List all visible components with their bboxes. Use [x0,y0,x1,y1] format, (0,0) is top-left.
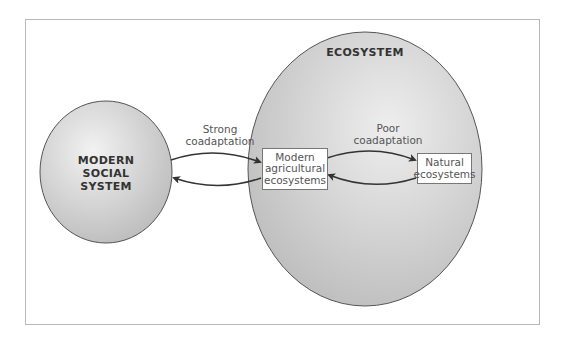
ecosystem-label: ECOSYSTEM [320,46,410,59]
social-system-label-line: SOCIAL [66,167,146,180]
poor-coadaptation-label: Poor coadaptation [343,122,433,146]
social-system-label: MODERN SOCIAL SYSTEM [66,154,146,193]
social-system-label-line: MODERN [66,154,146,167]
edge-label-line: Poor [343,122,433,134]
edge-label-line: Strong [175,123,265,135]
strong-coadaptation-label: Strong coadaptation [175,123,265,147]
agricultural-ecosystems-box: Modern agricultural ecosystems [262,148,328,190]
natural-ecosystems-box: Natural ecosystems [417,153,472,184]
edge-label-line: coadaptation [175,135,265,147]
social-system-label-line: SYSTEM [66,180,146,193]
box-label-line: ecosystems [264,175,326,187]
arrow-social-to-agri [171,153,260,162]
box-label-line: Natural [413,157,475,169]
edge-label-line: coadaptation [343,134,433,146]
box-label-line: ecosystems [413,169,475,181]
